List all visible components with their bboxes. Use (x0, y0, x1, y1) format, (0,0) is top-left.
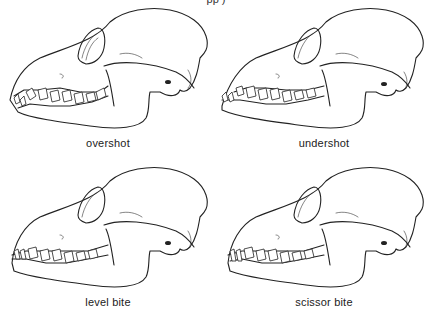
figure-scissor-bite: scissor bite (216, 159, 432, 318)
dog-skull-scissor-bite-illustration (216, 159, 432, 299)
figure-label: level bite (0, 296, 216, 308)
figure-label: scissor bite (216, 296, 432, 308)
dog-skull-undershot-illustration (216, 0, 432, 140)
figure-label: undershot (216, 137, 432, 149)
figure-level-bite: level bite (0, 159, 216, 318)
figure-undershot: undershot (216, 0, 432, 159)
figure-label: overshot (0, 137, 216, 149)
dog-skull-level-bite-illustration (0, 159, 216, 299)
dog-skull-overshot-illustration (0, 0, 216, 140)
figure-overshot: overshot (0, 0, 216, 159)
